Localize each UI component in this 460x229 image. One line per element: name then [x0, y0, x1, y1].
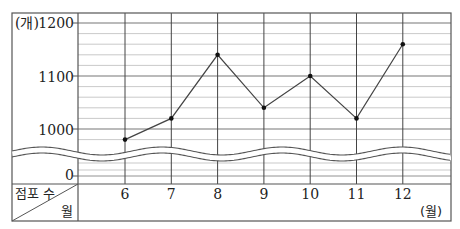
x-tick-8: 8 — [203, 187, 233, 201]
data-point — [169, 116, 174, 121]
data-point — [354, 116, 359, 121]
y-tick-1100: 1100 — [14, 70, 74, 84]
header-store-count: 점포 수 — [15, 187, 55, 200]
data-point — [215, 53, 220, 58]
x-tick-10: 10 — [295, 187, 325, 201]
x-tick-6: 6 — [110, 187, 140, 201]
x-unit-label: (월) — [420, 205, 442, 218]
data-point — [123, 137, 128, 142]
x-tick-9: 9 — [249, 187, 279, 201]
data-point — [262, 106, 267, 111]
x-tick-11: 11 — [342, 187, 372, 201]
y-tick-0: 0 — [14, 168, 74, 182]
y-tick-1000: 1000 — [14, 123, 74, 137]
x-tick-12: 12 — [388, 187, 418, 201]
y-tick-1200: 1200 — [14, 16, 74, 30]
header-month: 월 — [61, 205, 73, 218]
data-point — [401, 42, 406, 47]
x-tick-7: 7 — [156, 187, 186, 201]
data-point — [308, 74, 313, 79]
